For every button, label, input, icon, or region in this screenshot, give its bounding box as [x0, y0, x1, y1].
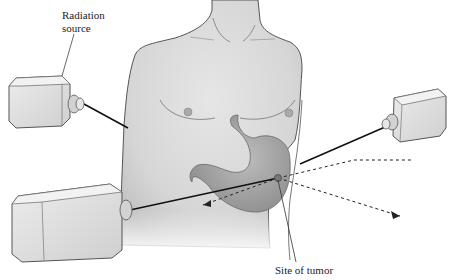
exit-beam-right [278, 178, 400, 216]
radiation-source-lower-left [12, 184, 132, 262]
radiation-source-label-line2: source [62, 22, 105, 35]
source-leader-line [62, 34, 74, 76]
radiation-source-right [382, 89, 446, 142]
radiation-therapy-diagram [0, 0, 449, 280]
site-of-tumor-label: Site of tumor [275, 264, 333, 277]
radiation-source-upper-left [9, 34, 84, 128]
beam-upper-left [84, 104, 128, 128]
arrow-icon [391, 211, 400, 219]
nipple-left [184, 108, 192, 116]
radiation-source-label: Radiation source [62, 9, 105, 35]
beam-right [300, 124, 392, 164]
radiation-source-label-line1: Radiation [62, 9, 105, 22]
torso [115, 0, 302, 260]
nipple-right [285, 109, 293, 117]
